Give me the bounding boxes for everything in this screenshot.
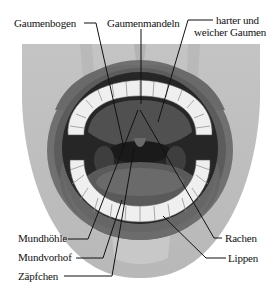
label-gaumenmandeln: Gaumenmandeln (107, 17, 180, 29)
label-zaepfchen: Zäpfchen (18, 270, 58, 282)
label-gaumenbogen: Gaumenbogen (14, 17, 76, 29)
label-mundvorhof: Mundvorhof (18, 251, 72, 263)
label-gaumen-line2: weicher Gaumen (194, 26, 266, 38)
mouth-anatomy-diagram: Gaumenbogen Gaumenmandeln harter und wei… (0, 0, 279, 297)
label-gaumen-line1: harter und (216, 14, 259, 26)
label-mundhoehle: Mundhöhle (18, 232, 67, 244)
label-rachen: Rachen (225, 232, 257, 244)
label-lippen: Lippen (228, 252, 258, 264)
